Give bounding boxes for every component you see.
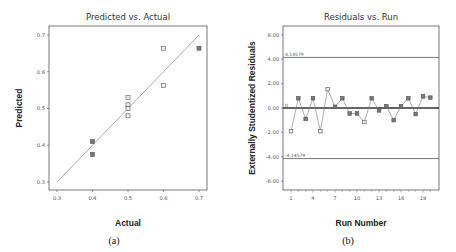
predicted-vs-actual-panel: Predicted vs. Actual0.30.40.50.60.70.30.… — [0, 0, 228, 252]
y-axis-label: Externally Studentized Residuals — [247, 41, 257, 175]
x-tick-label: 10 — [354, 195, 361, 201]
x-tick-label: 7 — [333, 195, 336, 201]
data-point — [304, 117, 308, 121]
x-tick-label: 0.7 — [195, 195, 203, 201]
data-point — [333, 105, 337, 109]
data-point — [355, 112, 359, 116]
x-tick-label: 0.3 — [53, 195, 61, 201]
data-point — [289, 129, 293, 133]
x-tick-label: 0.6 — [159, 195, 167, 201]
y-tick-label: 0.6 — [37, 69, 45, 75]
residual-line — [291, 89, 430, 131]
data-point — [385, 104, 389, 108]
x-axis-label: Run Number — [336, 218, 388, 228]
limit-line-label: -4.14579 — [285, 153, 305, 158]
data-point — [326, 87, 330, 91]
data-point — [414, 112, 418, 116]
x-axis-label: Actual — [115, 218, 141, 228]
data-point — [126, 95, 130, 99]
x-tick-label: 19 — [420, 195, 427, 201]
data-point — [429, 96, 433, 100]
x-tick-label: 0.4 — [88, 195, 97, 201]
data-point — [126, 107, 130, 111]
data-point — [421, 95, 425, 99]
data-point — [91, 152, 95, 156]
y-tick-label: 6.00 — [267, 32, 279, 38]
data-point — [341, 96, 345, 100]
data-point — [407, 96, 411, 100]
y-tick-label: -6.00 — [266, 178, 279, 184]
x-tick-label: 0.5 — [124, 195, 132, 201]
residuals-vs-run-chart: Residuals vs. Run6.004.002.000.00-2.00-4… — [228, 0, 456, 252]
limit-line-label: 4.14579 — [285, 52, 304, 57]
y-tick-label: 0.7 — [37, 32, 45, 38]
data-point — [126, 114, 130, 118]
chart-title: Predicted vs. Actual — [86, 12, 170, 22]
y-tick-label: 0.5 — [37, 105, 45, 111]
y-tick-label: 2.00 — [267, 80, 279, 86]
limit-line-label: 0 — [285, 103, 288, 108]
data-point — [197, 46, 201, 50]
y-tick-label: 0.3 — [37, 179, 45, 185]
y-tick-label: 4.00 — [267, 56, 279, 62]
x-tick-label: 4 — [311, 195, 315, 201]
data-point — [392, 118, 396, 122]
data-point — [377, 109, 381, 113]
x-tick-label: 16 — [398, 195, 405, 201]
x-tick-label: 13 — [376, 195, 383, 201]
data-point — [91, 140, 95, 144]
x-tick-label: 1 — [289, 195, 292, 201]
data-point — [370, 96, 374, 100]
y-tick-label: -4.00 — [266, 154, 279, 160]
panel-caption: (a) — [108, 235, 119, 247]
y-tick-label: 0.00 — [267, 105, 279, 111]
data-point — [363, 120, 367, 124]
y-tick-label: -2.00 — [266, 129, 279, 135]
chart-title: Residuals vs. Run — [324, 12, 398, 22]
residuals-vs-run-panel: Residuals vs. Run6.004.002.000.00-2.00-4… — [228, 0, 456, 252]
data-point — [297, 96, 301, 100]
data-point — [162, 83, 166, 87]
data-point — [311, 96, 315, 100]
y-axis-label: Predicted — [14, 89, 24, 128]
y-tick-label: 0.4 — [37, 142, 46, 148]
data-point — [399, 104, 403, 108]
data-point — [162, 46, 166, 50]
panel-caption: (b) — [342, 235, 354, 247]
predicted-vs-actual-chart: Predicted vs. Actual0.30.40.50.60.70.30.… — [0, 0, 228, 252]
data-point — [348, 112, 352, 116]
data-point — [319, 129, 323, 133]
